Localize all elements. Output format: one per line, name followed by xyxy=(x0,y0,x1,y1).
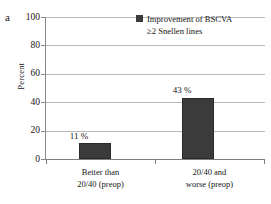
bar-value-better-than-2040: 11 % xyxy=(63,132,95,141)
y-tick-60 xyxy=(41,74,45,75)
x-category-line2-better: 20/40 (preop) xyxy=(46,179,155,191)
x-category-line1-better: Better than xyxy=(46,167,155,179)
x-category-label-2040-and-worse: 20/40 and worse (preop) xyxy=(155,167,264,190)
x-tick-left xyxy=(46,159,47,164)
y-tick-label-100: 100 xyxy=(10,13,40,23)
y-tick-label-20: 20 xyxy=(10,126,40,136)
x-category-label-better-than-2040: Better than 20/40 (preop) xyxy=(46,167,155,190)
gridline-60 xyxy=(46,74,265,75)
gridline-40 xyxy=(46,102,265,103)
x-tick-right xyxy=(264,159,265,164)
y-tick-label-0: 0 xyxy=(10,155,40,165)
legend-label-line1: Improvement of BSCVA xyxy=(147,13,232,25)
y-tick-0 xyxy=(41,159,45,160)
bar-2040-and-worse xyxy=(182,98,214,159)
x-tick-middle xyxy=(155,159,156,164)
y-tick-40 xyxy=(41,102,45,103)
y-tick-20 xyxy=(41,131,45,132)
bar-value-2040-and-worse: 43 % xyxy=(166,86,198,95)
x-category-line1-worse: 20/40 and xyxy=(155,167,264,179)
x-category-line2-worse: worse (preop) xyxy=(155,179,264,191)
y-axis-line xyxy=(45,17,46,160)
legend-swatch-icon xyxy=(136,15,143,22)
y-axis-title: Percent xyxy=(17,46,26,106)
legend: Improvement of BSCVA ≥2 Snellen lines xyxy=(136,13,232,37)
bar-better-than-2040 xyxy=(79,143,111,159)
y-tick-80 xyxy=(41,45,45,46)
figure-panel-a: a 11 % 43 % 100 80 60 40 20 0 Percent Be… xyxy=(0,0,271,204)
gridline-80 xyxy=(46,45,265,46)
legend-label-line2: ≥2 Snellen lines xyxy=(147,25,232,37)
y-tick-100 xyxy=(41,17,45,18)
legend-item-improvement: Improvement of BSCVA xyxy=(136,13,232,25)
